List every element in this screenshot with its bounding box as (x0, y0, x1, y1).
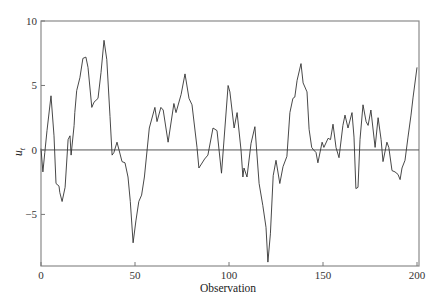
y-tick-label: 5 (32, 79, 38, 91)
series-line-u-t (41, 40, 417, 262)
y-tick-label: −5 (25, 208, 37, 220)
plot-border (41, 21, 419, 266)
y-axis-ticks: −50510 (25, 15, 45, 220)
x-axis-title: Observation (200, 282, 256, 294)
x-tick-label: 150 (315, 269, 332, 281)
x-tick-label: 100 (221, 269, 238, 281)
x-axis-ticks: 050100150200 (38, 262, 426, 281)
y-axis-title-subscript: t (18, 147, 27, 150)
x-tick-label: 0 (38, 269, 44, 281)
series-line (41, 40, 417, 262)
y-tick-label: 10 (26, 15, 38, 27)
y-tick-label: 0 (32, 144, 38, 156)
plot-area (41, 21, 419, 266)
x-tick-label: 200 (409, 269, 426, 281)
svg-text:ut: ut (12, 147, 27, 156)
time-series-chart: 050100150200 −50510 Observation ut (0, 0, 439, 303)
x-tick-label: 50 (130, 269, 142, 281)
y-axis-title: ut (12, 147, 27, 156)
